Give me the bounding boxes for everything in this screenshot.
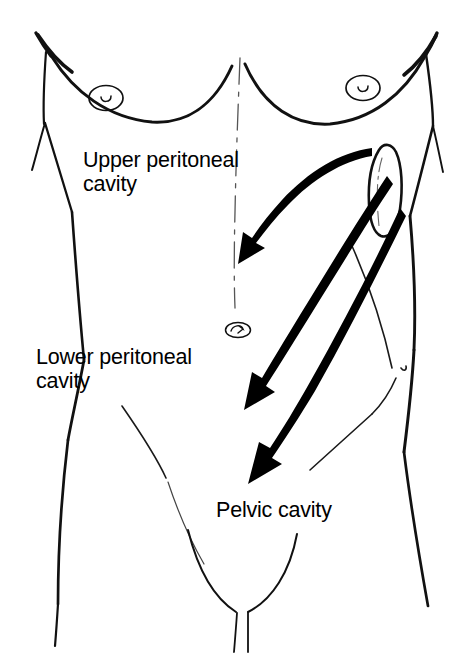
left-nipple (89, 86, 123, 111)
right-arm-inner (426, 54, 433, 126)
groin-cleft-left (234, 613, 237, 652)
groin-left-curve (188, 530, 236, 612)
right-inguinal-contour (310, 414, 372, 470)
right-pectoral-contour (245, 58, 424, 124)
label-lower-peritoneal-cavity: Lower peritoneal cavity (36, 345, 192, 393)
umbilicus (226, 323, 251, 338)
left-inguinal-contour-lower (168, 482, 204, 564)
left-inguinal-contour (122, 406, 166, 478)
right-thigh-outline (404, 452, 428, 606)
right-inguinal-contour-upper (372, 378, 396, 414)
right-nipple (346, 76, 380, 101)
label-pelvic-cavity: Pelvic cavity (216, 498, 332, 522)
right-flank-outline (410, 216, 415, 350)
left-armpit-fold (32, 123, 45, 170)
right-armpit-fold (433, 126, 443, 172)
left-pectoral-contour (52, 57, 232, 122)
groin-right-curve (248, 534, 297, 612)
right-arm-outer (410, 126, 433, 216)
left-leg-outline (55, 604, 58, 646)
label-upper-peritoneal-cavity: Upper peritoneal cavity (83, 148, 239, 196)
right-waist-outline (404, 350, 414, 452)
right-iliac-tick (401, 366, 406, 370)
left-hip-outline (58, 440, 68, 604)
left-shoulder-slope (38, 35, 72, 72)
anatomical-diagram: Upper peritoneal cavity Lower peritoneal… (0, 0, 469, 671)
arrow-to-pelvic-cavity (248, 208, 406, 484)
right-shoulder-slope (404, 36, 436, 75)
anatomy-line-drawing (0, 0, 469, 671)
left-arm-inner (44, 52, 46, 124)
left-flank-outline (72, 212, 84, 360)
left-arm-outer (45, 123, 72, 212)
